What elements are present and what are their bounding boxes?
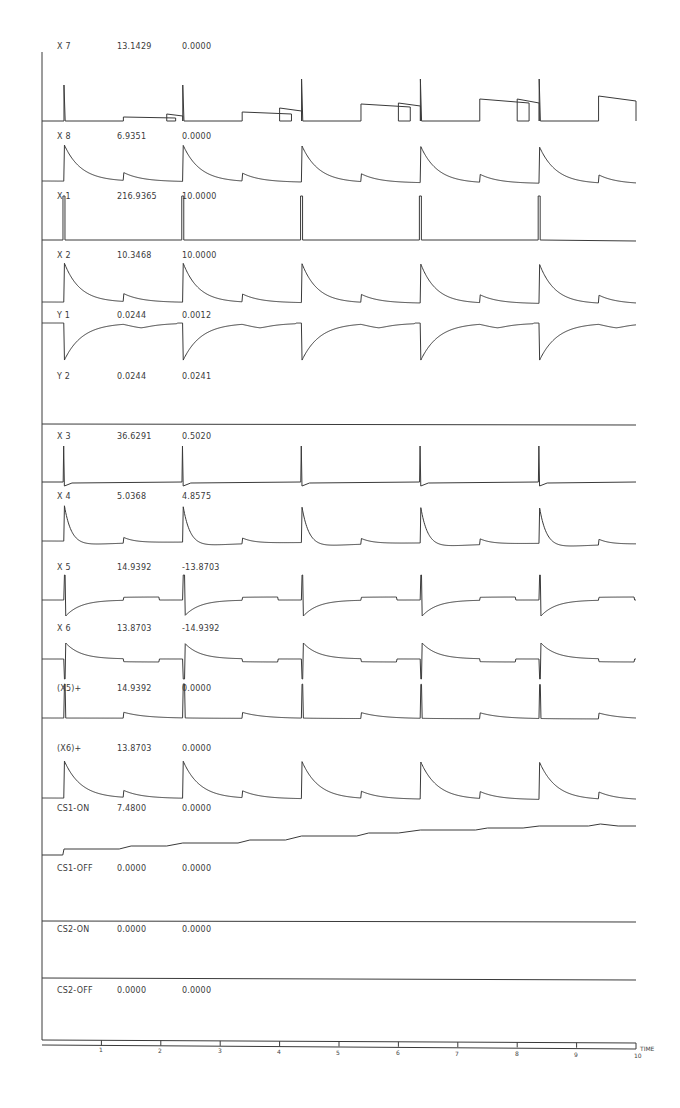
trace-max-x7: 13.1429 — [117, 42, 151, 51]
trace-name-cs1-off: CS1-OFF — [57, 864, 93, 873]
trace-max-x8: 6.9351 — [117, 132, 146, 141]
trace-min-cs1-off: 0.0000 — [182, 864, 211, 873]
x-tick-6: 6 — [396, 1049, 400, 1056]
trace-name-cs1-on: CS1-ON — [57, 804, 89, 813]
trace-max-x5-plus: 14.9392 — [117, 684, 151, 693]
x-tick-7: 7 — [455, 1050, 459, 1057]
trace-x6 — [42, 643, 636, 679]
x-tick-1: 1 — [99, 1046, 103, 1053]
trace-name-x4: X 4 — [57, 492, 71, 501]
trace-max-x2: 10.3468 — [117, 251, 151, 260]
trace-name-x2: X 2 — [57, 251, 71, 260]
trace-y1 — [42, 323, 636, 360]
trace-x8 — [42, 145, 636, 183]
trace-name-x7: X 7 — [57, 42, 71, 51]
trace-name-x8: X 8 — [57, 132, 71, 141]
trace-max-x6: 13.8703 — [117, 624, 151, 633]
x-tick-4: 4 — [277, 1048, 281, 1055]
trace-min-x5-plus: 0.0000 — [182, 684, 211, 693]
trace-y2 — [42, 424, 636, 425]
x-tick-5: 5 — [336, 1049, 340, 1056]
x-tick-9: 9 — [574, 1051, 578, 1058]
trace-max-x1: 216.9365 — [117, 192, 157, 201]
trace-min-cs2-off: 0.0000 — [182, 986, 211, 995]
x-tick-2: 2 — [158, 1047, 162, 1054]
trace-cs1on — [42, 824, 636, 855]
trace-max-y2: 0.0244 — [117, 372, 146, 381]
trace-name-x5: X 5 — [57, 563, 71, 572]
trace-min-x7: 0.0000 — [182, 42, 211, 51]
trace-max-x6-plus: 13.8703 — [117, 744, 151, 753]
trace-x1 — [42, 196, 636, 241]
trace-x2 — [42, 263, 636, 303]
trace-cs2on — [42, 978, 636, 980]
trace-min-y1: 0.0012 — [182, 311, 211, 320]
trace-cs1off — [42, 921, 636, 922]
trace-x5 — [42, 575, 636, 616]
trace-x3 — [42, 446, 636, 486]
trace-max-cs1-on: 7.4800 — [117, 804, 146, 813]
trace-min-x6-plus: 0.0000 — [182, 744, 211, 753]
trace-name-x6-plus: (X6)+ — [57, 744, 82, 753]
trace-name-cs2-off: CS2-OFF — [57, 986, 93, 995]
trace-name-x6: X 6 — [57, 624, 71, 633]
trace-name-x5-plus: (X5)+ — [57, 684, 82, 693]
trace-name-y1: Y 1 — [57, 311, 70, 320]
trace-x4 — [42, 506, 636, 546]
x-tick-3: 3 — [218, 1047, 222, 1054]
trace-max-x5: 14.9392 — [117, 563, 151, 572]
trace-min-x4: 4.8575 — [182, 492, 211, 501]
trace-min-cs2-on: 0.0000 — [182, 925, 211, 934]
strip-chart — [0, 0, 680, 1108]
trace-min-cs1-on: 0.0000 — [182, 804, 211, 813]
trace-x6p — [42, 761, 636, 799]
trace-max-cs2-off: 0.0000 — [117, 986, 146, 995]
trace-min-x8: 0.0000 — [182, 132, 211, 141]
trace-min-x1: 10.0000 — [182, 192, 216, 201]
trace-name-x1: X 1 — [57, 192, 71, 201]
x-axis-label: TIME — [640, 1045, 654, 1052]
trace-max-x3: 36.6291 — [117, 432, 151, 441]
x-tick-10: 10 — [634, 1052, 642, 1059]
trace-max-x4: 5.0368 — [117, 492, 146, 501]
trace-min-x6: -14.9392 — [182, 624, 220, 633]
trace-max-cs2-on: 0.0000 — [117, 925, 146, 934]
trace-name-cs2-on: CS2-ON — [57, 925, 89, 934]
trace-name-x3: X 3 — [57, 432, 71, 441]
trace-min-x5: -13.8703 — [182, 563, 220, 572]
trace-min-y2: 0.0241 — [182, 372, 211, 381]
trace-max-y1: 0.0244 — [117, 311, 146, 320]
trace-name-y2: Y 2 — [57, 372, 70, 381]
trace-max-cs1-off: 0.0000 — [117, 864, 146, 873]
trace-x7 — [42, 79, 636, 121]
trace-min-x2: 10.0000 — [182, 251, 216, 260]
trace-min-x3: 0.5020 — [182, 432, 211, 441]
x-tick-8: 8 — [515, 1050, 519, 1057]
